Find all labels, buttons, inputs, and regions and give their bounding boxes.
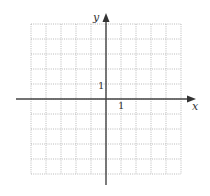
x-tick-label-1: 1 <box>118 100 124 111</box>
y-tick-label-1: 1 <box>98 80 104 91</box>
x-axis-label: x <box>192 100 199 113</box>
y-axis-label: y <box>92 11 100 24</box>
y-axis-arrow-icon <box>103 13 110 22</box>
coordinate-plane: y x 1 1 <box>0 0 210 196</box>
